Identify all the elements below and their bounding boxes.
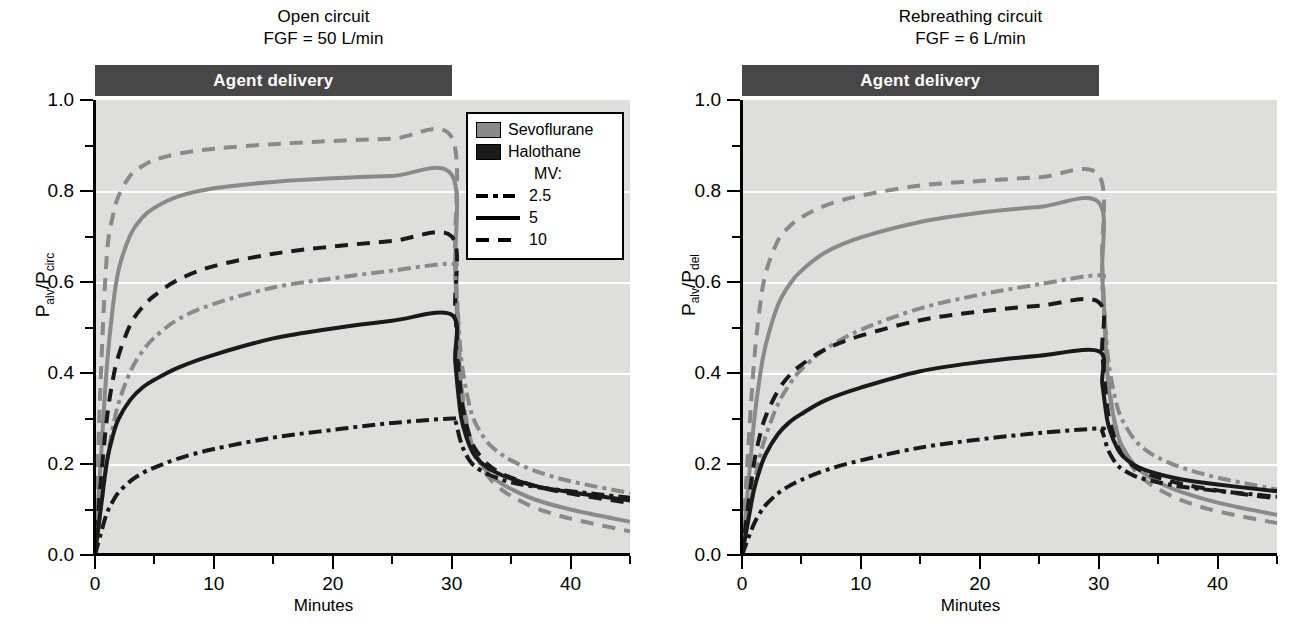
- x-tick: [451, 556, 453, 569]
- y-tick: [80, 281, 93, 283]
- series-line: [742, 198, 1277, 555]
- series-line: [95, 418, 630, 555]
- y-axis-title-left: Palv/Pcirc: [32, 253, 57, 318]
- x-tick-label: 10: [203, 573, 224, 595]
- legend-label-mv-2point5-left: 2.5: [529, 187, 551, 205]
- y-tick-minor: [732, 327, 740, 329]
- dashdot-line-icon-left: [476, 194, 520, 198]
- panel-title-left-line1: Open circuit: [278, 7, 370, 26]
- x-tick-label: 20: [322, 573, 343, 595]
- y-title-right-p1: P: [678, 303, 699, 316]
- panel-title-left-line2: FGF = 50 L/min: [0, 28, 647, 50]
- x-tick: [332, 556, 334, 569]
- y-tick-minor: [732, 145, 740, 147]
- y-tick-label: 0.4: [695, 362, 721, 384]
- x-tick-minor: [510, 556, 512, 564]
- panel-open-circuit: Open circuit FGF = 50 L/min Agent delive…: [0, 0, 647, 630]
- y-tick: [727, 554, 740, 556]
- y-tick-minor: [732, 418, 740, 420]
- y-title-right-sub1: alv: [688, 288, 702, 303]
- y-title-left-sub1: alv: [43, 289, 57, 304]
- agent-delivery-bar-right: Agent delivery: [742, 65, 1099, 96]
- y-tick-label: 0.8: [48, 180, 74, 202]
- agent-delivery-label-right: Agent delivery: [860, 71, 980, 91]
- x-tick-minor: [1038, 556, 1040, 564]
- y-tick-label: 1.0: [695, 89, 721, 111]
- legend-label-mv-5-left: 5: [529, 209, 538, 227]
- y-title-left-sub2: circ: [43, 253, 57, 272]
- y-title-right-sub2: del: [688, 254, 702, 270]
- x-tick-label: 20: [969, 573, 990, 595]
- x-tick-label: 40: [560, 573, 581, 595]
- x-tick: [213, 556, 215, 569]
- legend-label-halothane-left: Halothane: [508, 143, 581, 161]
- x-tick: [94, 556, 96, 569]
- y-tick: [80, 99, 93, 101]
- x-axis-title-left: Minutes: [0, 596, 647, 616]
- y-tick: [727, 463, 740, 465]
- figure-two-panel-anesthetic-kinetics: Open circuit FGF = 50 L/min Agent delive…: [0, 0, 1294, 630]
- x-tick: [741, 556, 743, 569]
- series-line: [742, 275, 1277, 555]
- x-tick-label: 0: [90, 573, 101, 595]
- agent-delivery-bar-left: Agent delivery: [95, 65, 452, 96]
- legend-label-sevoflurane-left: Sevoflurane: [508, 121, 593, 139]
- y-axis-title-right: Palv/Pdel: [678, 254, 703, 316]
- x-tick: [860, 556, 862, 569]
- legend-label-mv-10-left: 10: [529, 231, 547, 249]
- curves-right: [742, 100, 1277, 555]
- y-tick-label: 1.0: [48, 89, 74, 111]
- x-tick-minor: [272, 556, 274, 564]
- legend-item-sevoflurane-left: Sevoflurane: [476, 119, 614, 141]
- y-tick-label: 0.4: [48, 362, 74, 384]
- y-tick-label: 0.2: [48, 453, 74, 475]
- x-axis-title-right: Minutes: [647, 596, 1294, 616]
- x-tick-minor: [153, 556, 155, 564]
- x-tick-label: 30: [1088, 573, 1109, 595]
- dashed-line-icon-left: [476, 238, 520, 242]
- y-tick: [727, 99, 740, 101]
- plot-area-right: [742, 100, 1277, 555]
- panel-title-right: Rebreathing circuit FGF = 6 L/min: [647, 6, 1294, 50]
- y-tick: [80, 190, 93, 192]
- panel-rebreathing-circuit: Rebreathing circuit FGF = 6 L/min Agent …: [647, 0, 1294, 630]
- y-tick: [727, 281, 740, 283]
- legend-item-halothane-left: Halothane: [476, 141, 614, 163]
- panel-title-left: Open circuit FGF = 50 L/min: [0, 6, 647, 50]
- y-tick-minor: [85, 145, 93, 147]
- x-tick-minor: [1157, 556, 1159, 564]
- legend-left: Sevoflurane Halothane MV: 2.5 5 10: [466, 112, 624, 260]
- y-tick: [80, 372, 93, 374]
- series-line: [95, 232, 630, 555]
- legend-item-mv-2point5-left: 2.5: [476, 185, 614, 207]
- x-tick-minor: [1276, 556, 1278, 564]
- y-tick: [80, 463, 93, 465]
- panel-title-right-line1: Rebreathing circuit: [899, 7, 1043, 26]
- y-title-left-p1: P: [32, 305, 53, 318]
- x-tick-minor: [919, 556, 921, 564]
- legend-item-mv-10-left: 10: [476, 229, 614, 251]
- x-tick: [979, 556, 981, 569]
- y-title-right-slash: /P: [678, 270, 699, 288]
- y-tick-label: 0.2: [695, 453, 721, 475]
- x-axis-ticks-right: 010203040: [740, 556, 1277, 557]
- x-tick: [1098, 556, 1100, 569]
- solid-line-icon-left: [476, 216, 520, 220]
- sevoflurane-swatch-icon-left: [476, 122, 501, 138]
- y-tick-label: 0.0: [695, 544, 721, 566]
- x-tick: [1217, 556, 1219, 569]
- halothane-swatch-icon-left: [476, 144, 501, 160]
- x-axis-ticks-left: 010203040: [93, 556, 630, 557]
- x-tick-label: 0: [737, 573, 748, 595]
- y-title-left-slash: /P: [32, 271, 53, 289]
- y-tick-minor: [85, 327, 93, 329]
- panel-title-right-line2: FGF = 6 L/min: [647, 28, 1294, 50]
- y-tick: [727, 190, 740, 192]
- y-tick-minor: [732, 509, 740, 511]
- agent-delivery-label-left: Agent delivery: [213, 71, 333, 91]
- series-line: [742, 428, 1277, 555]
- x-tick: [570, 556, 572, 569]
- x-tick-label: 30: [441, 573, 462, 595]
- y-tick-label: 0.0: [48, 544, 74, 566]
- x-tick-label: 40: [1207, 573, 1228, 595]
